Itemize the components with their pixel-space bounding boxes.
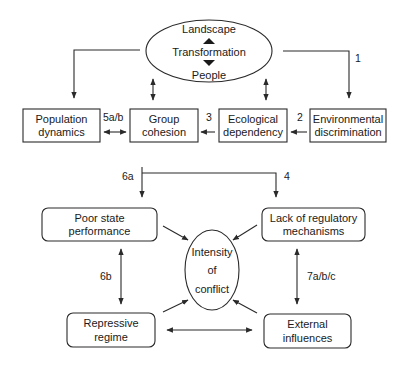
- landscape-people-node: Landscape Transformation People: [146, 20, 272, 82]
- edge-label-7abc: 7a/b/c: [307, 270, 336, 282]
- poor-state-performance-node: Poor state performance: [42, 208, 157, 241]
- environmental-discrimination-node: Environmental discrimination: [310, 109, 386, 142]
- edge-label-5ab: 5a/b: [103, 111, 124, 123]
- svg-text:Lack of regulatory: Lack of regulatory: [270, 212, 358, 224]
- svg-text:dynamics: dynamics: [38, 126, 85, 138]
- svg-text:cohesion: cohesion: [142, 126, 186, 138]
- edge-label-2: 2: [297, 111, 303, 123]
- edge-external-to-intensity: [233, 300, 257, 313]
- svg-text:mechanisms: mechanisms: [283, 225, 345, 237]
- edge-label-6b: 6b: [100, 270, 112, 282]
- intensity-of-conflict-node: Intensity of conflict: [185, 230, 239, 310]
- svg-text:regime: regime: [94, 331, 128, 343]
- lack-of-regulatory-mechanisms-node: Lack of regulatory mechanisms: [262, 208, 365, 241]
- edge-lack-regulatory-to-intensity: [233, 225, 257, 240]
- edge-label-6a: 6a: [122, 170, 134, 182]
- svg-text:Ecological: Ecological: [228, 113, 278, 125]
- repressive-regime-node: Repressive regime: [67, 313, 155, 347]
- edge-label-4: 4: [284, 170, 290, 182]
- svg-text:Poor state: Poor state: [74, 212, 124, 224]
- svg-text:influences: influences: [283, 332, 333, 344]
- svg-text:External: External: [287, 318, 327, 330]
- svg-text:performance: performance: [69, 225, 131, 237]
- svg-text:Population: Population: [36, 113, 88, 125]
- ecological-dependency-node: Ecological dependency: [219, 109, 287, 142]
- group-cohesion-node: Group cohesion: [130, 109, 198, 142]
- edge-ellipse-to-population: [74, 50, 140, 98]
- external-influences-node: External influences: [264, 314, 351, 348]
- svg-text:Repressive: Repressive: [83, 317, 138, 329]
- svg-text:dependency: dependency: [223, 126, 283, 138]
- edge-poor-state-to-intensity: [163, 226, 188, 240]
- edge-group-to-lack-regulatory: [142, 173, 276, 197]
- svg-text:discrimination: discrimination: [314, 126, 381, 138]
- transformation-label: Transformation: [172, 46, 246, 58]
- edge-label-1: 1: [355, 52, 361, 64]
- edge-label-3: 3: [206, 111, 212, 123]
- conflict-diagram: Landscape Transformation People 1 Popula…: [0, 0, 403, 368]
- svg-text:Intensity: Intensity: [192, 246, 233, 258]
- people-label: People: [192, 69, 226, 81]
- landscape-label: Landscape: [182, 23, 236, 35]
- population-dynamics-node: Population dynamics: [23, 109, 100, 142]
- svg-text:Environmental: Environmental: [313, 113, 383, 125]
- svg-text:Group: Group: [149, 113, 180, 125]
- edge-repressive-to-intensity: [163, 300, 188, 312]
- svg-text:of: of: [207, 264, 217, 276]
- svg-text:conflict: conflict: [195, 283, 229, 295]
- edge-ellipse-to-environmental: [283, 51, 349, 98]
